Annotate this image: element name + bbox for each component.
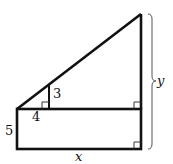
y-brace bbox=[148, 14, 156, 149]
figure-svg bbox=[0, 0, 173, 164]
hypotenuse-line bbox=[17, 14, 141, 109]
label-y: y bbox=[157, 74, 164, 87]
label-x: x bbox=[75, 150, 82, 163]
label-small-base: 4 bbox=[32, 110, 40, 123]
label-rectangle-height: 5 bbox=[5, 124, 13, 137]
geometry-diagram: 3 4 5 x y bbox=[0, 0, 173, 164]
label-small-height: 3 bbox=[53, 87, 61, 100]
